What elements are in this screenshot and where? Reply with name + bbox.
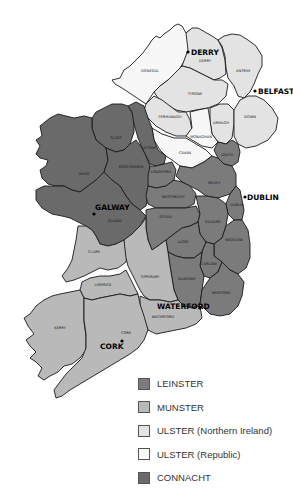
label-kilkenny: KILKENNY <box>178 277 196 281</box>
city-dublin: DUBLIN <box>247 193 279 202</box>
label-galway: GALWAY <box>108 219 123 223</box>
city-cork: CORK <box>100 342 125 351</box>
legend-label: MUNSTER <box>157 402 204 413</box>
city-waterford: WATERFORD <box>157 302 210 311</box>
legend-label: LEINSTER <box>157 378 203 389</box>
label-kildare: KILDARE <box>205 220 221 224</box>
label-laois: LAOIS <box>178 240 189 244</box>
label-offaly: OFFALY <box>160 215 174 219</box>
label-wexford: WEXFORD <box>212 291 231 295</box>
swatch-connacht <box>138 472 150 484</box>
label-cork: CORK <box>121 331 132 335</box>
label-carlow: CARLOW <box>201 262 217 266</box>
legend-item-leinster: LEINSTER <box>138 372 272 396</box>
label-tyrone: TYRONE <box>187 92 203 96</box>
legend-item-connacht: CONNACHT <box>138 466 272 490</box>
label-roscommon: ROSCOMMON <box>119 165 144 169</box>
label-cavan: CAVAN <box>179 151 191 155</box>
label-louth: LOUTH <box>221 153 234 157</box>
city-dot-galway <box>92 212 95 215</box>
label-tipperary: TIPPERARY <box>139 275 160 279</box>
city-dot-derry <box>186 50 189 53</box>
label-monaghan: MONAGHAN <box>190 135 212 139</box>
label-mayo: MAYO <box>79 172 89 176</box>
swatch-leinster <box>138 378 150 390</box>
label-longford: LONGFORD <box>151 170 172 174</box>
swatch-munster <box>138 401 150 413</box>
swatch-ulster-rep <box>138 448 150 460</box>
legend-label: ULSTER (Republic) <box>157 449 240 460</box>
legend-label: CONNACHT <box>157 472 211 483</box>
label-limerick: LIMERICK <box>95 283 112 287</box>
label-dublin: DUBLIN <box>230 203 244 207</box>
city-dot-belfast <box>253 89 256 92</box>
legend-item-ulster-ni: ULSTER (Northern Ireland) <box>138 419 272 443</box>
legend-item-ulster-rep: ULSTER (Republic) <box>138 443 272 467</box>
city-belfast: BELFAST <box>258 87 293 96</box>
label-donegal: DONEGAL <box>141 69 159 73</box>
label-leitrim: LEITRIM <box>142 146 156 150</box>
city-galway: GALWAY <box>95 203 130 212</box>
label-westmeath: WESTMEATH <box>162 195 185 199</box>
label-antrim: ANTRIM <box>236 69 250 73</box>
label-clare: CLARE <box>88 250 101 254</box>
label-wicklow: WICKLOW <box>225 238 243 242</box>
label-fermanagh: FERMANAGH <box>159 115 182 119</box>
label-sligo: SLIGO <box>111 136 122 140</box>
label-armagh: ARMAGH <box>213 121 229 125</box>
legend-item-munster: MUNSTER <box>138 396 272 420</box>
label-kerry: KERRY <box>54 326 66 330</box>
label-down: DOWN <box>244 115 256 119</box>
label-meath: MEATH <box>208 181 221 185</box>
label-waterford: WATERFORD <box>152 315 175 319</box>
city-derry: DERRY <box>191 48 219 57</box>
legend-label: ULSTER (Northern Ireland) <box>157 425 272 436</box>
county-down <box>234 96 278 148</box>
label-derry: DERRY <box>199 59 212 63</box>
map-legend: LEINSTER MUNSTER ULSTER (Northern Irelan… <box>138 372 272 490</box>
swatch-ulster-ni <box>138 425 150 437</box>
